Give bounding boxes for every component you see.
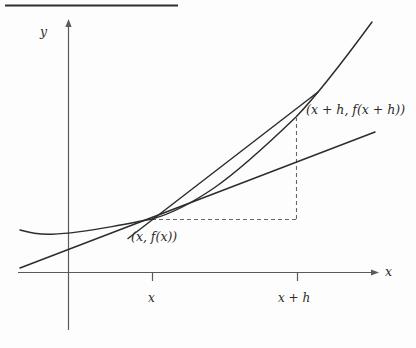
function-curve-f bbox=[20, 22, 372, 234]
figure-canvas bbox=[0, 0, 416, 348]
secant-point-label: (x + h, f(x + h)) bbox=[306, 104, 405, 117]
tangent-line bbox=[20, 132, 375, 268]
x-tick-label-x-plus-h: x + h bbox=[278, 292, 310, 304]
derivative-secant-tangent-figure: y x x x + h (x, f(x)) (x + h, f(x + h)) bbox=[0, 0, 416, 348]
tangent-point-label: (x, f(x)) bbox=[131, 231, 177, 244]
x-tick-label-x: x bbox=[148, 292, 155, 304]
x-axis-label: x bbox=[385, 266, 392, 279]
x-axis-arrow-icon bbox=[371, 269, 379, 275]
y-axis-label: y bbox=[40, 26, 47, 39]
y-axis-arrow-icon bbox=[65, 19, 71, 27]
